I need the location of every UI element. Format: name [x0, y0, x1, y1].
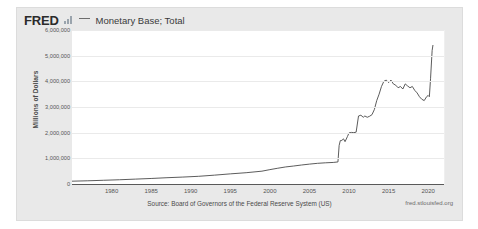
y-tick-label: 6,000,000: [20, 27, 70, 33]
source-url[interactable]: fred.stlouisfed.org: [405, 200, 453, 206]
y-tick-label: 1,000,000: [20, 155, 70, 161]
line-dash-icon: [79, 18, 90, 19]
x-tick-label: 2005: [289, 188, 329, 195]
gridline: [72, 56, 444, 57]
y-tick-label: 0: [20, 181, 70, 187]
x-axis-line: [72, 184, 444, 185]
x-tick-label: 1995: [210, 188, 250, 195]
y-tick-label: 3,000,000: [20, 104, 70, 110]
x-tick-label: 2020: [408, 188, 448, 195]
y-tick-label: 5,000,000: [20, 53, 70, 59]
gridline: [72, 30, 444, 31]
fred-chart-screenshot: FRED Monetary Base; Total Millions of Do…: [0, 0, 478, 229]
y-axis-ticks: 01,000,0002,000,0003,000,0004,000,0005,0…: [17, 30, 70, 184]
chart-card: FRED Monetary Base; Total Millions of Do…: [17, 8, 462, 220]
x-tick-label: 1985: [131, 188, 171, 195]
x-tick-label: 1980: [92, 188, 132, 195]
series-title: Monetary Base; Total: [96, 15, 185, 26]
gridline: [72, 133, 444, 134]
x-tick-label: 2000: [250, 188, 290, 195]
gridline: [72, 158, 444, 159]
plot-area: [72, 30, 445, 184]
gridline: [72, 107, 444, 108]
gridline: [72, 81, 444, 82]
bar-chart-icon: [64, 16, 72, 24]
x-tick-label: 1990: [171, 188, 211, 195]
fred-logo[interactable]: FRED: [24, 14, 59, 27]
x-tick-label: 2010: [329, 188, 369, 195]
y-tick-label: 2,000,000: [20, 130, 70, 136]
x-axis-ticks: 198019851990199520002005201020152020: [72, 188, 444, 198]
y-tick-label: 4,000,000: [20, 78, 70, 84]
source-note: Source: Board of Governors of the Federa…: [17, 200, 462, 207]
x-tick-label: 2015: [369, 188, 409, 195]
chart-header: FRED Monetary Base; Total: [24, 12, 185, 28]
